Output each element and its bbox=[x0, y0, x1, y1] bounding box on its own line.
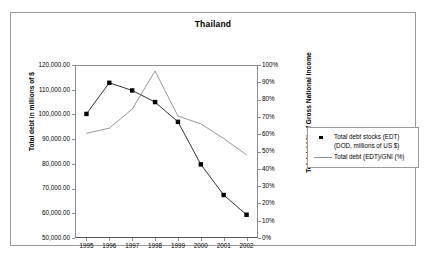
x-axis-tick-mark bbox=[224, 238, 225, 241]
data-point-marker bbox=[244, 213, 248, 217]
y-axis-tick-label: 60,000.00 bbox=[42, 210, 70, 216]
plot-series-layer bbox=[75, 65, 258, 238]
y2-axis-tick-mark bbox=[258, 186, 261, 187]
y-axis-tick-mark bbox=[72, 238, 75, 239]
square-marker-icon bbox=[312, 133, 334, 141]
y-axis-right-title: Total debt % of Gross National Income bbox=[305, 28, 312, 198]
y-axis-tick-mark bbox=[72, 90, 75, 91]
x-axis-tick-mark bbox=[132, 238, 133, 241]
data-point-marker bbox=[130, 88, 134, 92]
x-axis-tick-label: 2002 bbox=[234, 243, 260, 249]
y-axis-left-title: Total debt in millions of $ bbox=[28, 52, 35, 172]
y2-axis-tick-mark bbox=[258, 65, 261, 66]
legend-item-label: Total debt stocks (EDT) (DOD, millions o… bbox=[334, 133, 414, 150]
y2-axis-tick-mark bbox=[258, 221, 261, 222]
y-axis-tick-label: 90,000.00 bbox=[42, 136, 70, 142]
y-axis-tick-label: 120,000.00 bbox=[38, 62, 70, 68]
y2-axis-tick-label: 100% bbox=[262, 62, 278, 68]
y2-axis-tick-mark bbox=[258, 100, 261, 101]
x-axis-tick-mark bbox=[86, 238, 87, 241]
y2-axis-tick-label: 70% bbox=[262, 114, 275, 120]
x-axis-tick-mark bbox=[201, 238, 202, 241]
y2-axis-tick-mark bbox=[258, 134, 261, 135]
y2-axis-tick-label: 50% bbox=[262, 148, 275, 154]
y2-axis-tick-label: 30% bbox=[262, 183, 275, 189]
y2-axis-tick-label: 80% bbox=[262, 96, 275, 102]
y2-axis-tick-mark bbox=[258, 238, 261, 239]
data-point-marker bbox=[107, 81, 111, 85]
y2-axis-tick-mark bbox=[258, 203, 261, 204]
y2-axis-tick-mark bbox=[258, 152, 261, 153]
y2-axis-tick-label: 60% bbox=[262, 131, 275, 137]
y-axis-tick-label: 70,000.00 bbox=[42, 185, 70, 191]
y-axis-tick-mark bbox=[72, 65, 75, 66]
y2-axis-tick-label: 40% bbox=[262, 166, 275, 172]
chart-title: Thailand bbox=[11, 19, 415, 29]
data-point-marker bbox=[84, 112, 88, 116]
data-point-marker bbox=[153, 100, 157, 104]
chart-legend: Total debt stocks (EDT) (DOD, millions o… bbox=[307, 127, 419, 168]
y-axis-tick-label: 50,000.00 bbox=[42, 235, 70, 241]
y2-axis-tick-label: 90% bbox=[262, 79, 275, 85]
y-axis-tick-label: 100,000.00 bbox=[38, 111, 70, 117]
y2-axis-tick-label: 0% bbox=[262, 235, 271, 241]
x-axis-tick-mark bbox=[155, 238, 156, 241]
y-axis-tick-mark bbox=[72, 189, 75, 190]
y-axis-tick-mark bbox=[72, 139, 75, 140]
y2-axis-tick-label: 10% bbox=[262, 218, 275, 224]
y2-axis-tick-mark bbox=[258, 117, 261, 118]
y-axis-left-labels: 50,000.0060,000.0070,000.0080,000.0090,0… bbox=[11, 13, 70, 260]
y-axis-tick-label: 80,000.00 bbox=[42, 161, 70, 167]
y2-axis-tick-label: 20% bbox=[262, 200, 275, 206]
chart-container: Thailand 50,000.0060,000.0070,000.0080,0… bbox=[10, 12, 416, 246]
y-axis-tick-label: 110,000.00 bbox=[39, 87, 70, 93]
y2-axis-tick-mark bbox=[258, 82, 261, 83]
data-point-marker bbox=[176, 120, 180, 124]
y2-axis-tick-mark bbox=[258, 169, 261, 170]
x-axis-tick-mark bbox=[178, 238, 179, 241]
data-point-marker bbox=[199, 162, 203, 166]
x-axis-tick-mark bbox=[247, 238, 248, 241]
legend-item-debt-gni: Total debt (EDT)/GNI (%) bbox=[312, 153, 414, 162]
x-axis-tick-mark bbox=[109, 238, 110, 241]
y-axis-tick-mark bbox=[72, 164, 75, 165]
data-point-marker bbox=[221, 193, 225, 197]
line-swatch-icon bbox=[312, 153, 334, 161]
legend-item-label: Total debt (EDT)/GNI (%) bbox=[334, 153, 404, 162]
legend-item-debt-stocks: Total debt stocks (EDT) (DOD, millions o… bbox=[312, 133, 414, 150]
y-axis-tick-mark bbox=[72, 114, 75, 115]
y-axis-tick-mark bbox=[72, 213, 75, 214]
y-axis-right-labels: 0%10%20%30%40%50%60%70%80%90%100% bbox=[262, 13, 292, 260]
